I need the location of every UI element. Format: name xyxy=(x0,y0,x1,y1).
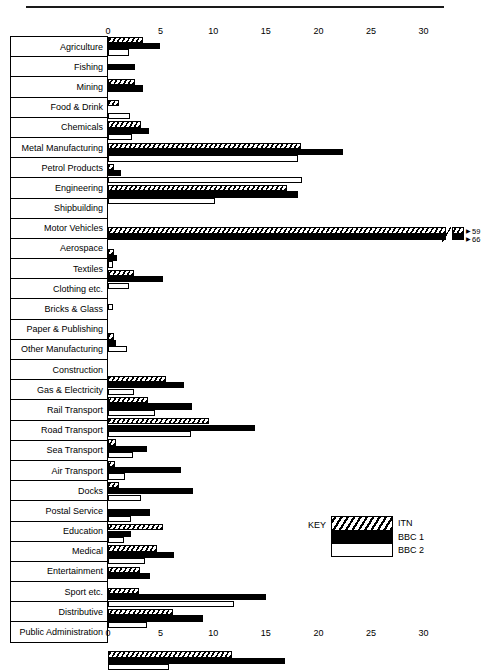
bar-engineering-bbc2 xyxy=(108,198,215,204)
bar-mining-bbc1 xyxy=(108,85,143,91)
bar-air-transport-itn xyxy=(108,482,119,488)
category-label-column: AgricultureFishingMiningFood & DrinkChem… xyxy=(10,36,108,643)
bar-group-medical xyxy=(108,566,480,587)
bar-textiles-bbc1 xyxy=(108,276,163,282)
legend-swatch-itn: ITN xyxy=(332,517,392,530)
bar-postal-service-itn xyxy=(108,524,163,530)
category-label-docks: Docks xyxy=(10,480,108,501)
bar-group-gas-electricity xyxy=(108,396,480,417)
bar-motor-vehicles-itn-outlier-stub xyxy=(452,227,464,233)
legend-swatch-bbc-2: BBC 2 xyxy=(332,543,392,556)
bar-group-paper-publishing xyxy=(108,333,480,354)
category-label-education: Education xyxy=(10,521,108,542)
bar-group-air-transport xyxy=(108,481,480,502)
x-axis-bottom-tick-30: 30 xyxy=(419,626,429,640)
bar-group-aerospace xyxy=(108,248,480,269)
bar-air-transport-bbc1 xyxy=(108,488,193,494)
category-label-textiles: Textiles xyxy=(10,258,108,279)
bar-paper-publishing-bbc2 xyxy=(108,346,127,352)
bar-group-docks xyxy=(108,502,480,523)
category-label-sea-transport: Sea Transport xyxy=(10,440,108,461)
legend-label-bbc-2: BBC 2 xyxy=(398,545,424,556)
bar-aerospace-bbc2 xyxy=(108,261,113,267)
bar-education-itn xyxy=(108,545,157,551)
category-label-aerospace: Aerospace xyxy=(10,238,108,259)
plot-area: 5966 xyxy=(108,36,480,608)
bar-entertainment-bbc1 xyxy=(108,594,266,600)
category-label-postal-service: Postal Service xyxy=(10,500,108,521)
bar-group-shipbuilding xyxy=(108,206,480,227)
bar-food-drink-bbc2 xyxy=(108,113,130,119)
bar-metal-manufacturing-itn xyxy=(108,143,301,149)
bar-clothing-etc-bbc2 xyxy=(108,304,113,310)
bar-agriculture-bbc1 xyxy=(108,43,160,49)
bar-sport-etc-itn xyxy=(108,609,173,615)
bar-textiles-bbc2 xyxy=(108,283,129,289)
bar-construction-itn xyxy=(108,376,166,382)
bar-road-transport-bbc1 xyxy=(108,446,147,452)
bar-sea-transport-bbc2 xyxy=(108,473,125,479)
bar-medical-itn xyxy=(108,567,140,573)
category-label-other-manufacturing: Other Manufacturing xyxy=(10,339,108,360)
bar-engineering-bbc1 xyxy=(108,191,298,197)
bar-rail-transport-bbc2 xyxy=(108,431,191,437)
bar-group-bricks-glass xyxy=(108,312,480,333)
bar-postal-service-bbc1 xyxy=(108,531,131,537)
bar-group-food-drink xyxy=(108,100,480,121)
bar-group-rail-transport xyxy=(108,418,480,439)
bar-group-entertainment xyxy=(108,587,480,608)
category-label-agriculture: Agriculture xyxy=(10,36,108,57)
category-label-clothing-etc: Clothing etc. xyxy=(10,278,108,299)
bar-food-drink-itn xyxy=(108,100,119,106)
bar-group-agriculture xyxy=(108,36,480,57)
bar-construction-bbc1 xyxy=(108,382,184,388)
category-label-road-transport: Road Transport xyxy=(10,420,108,441)
bar-group-engineering xyxy=(108,184,480,205)
category-label-chemicals: Chemicals xyxy=(10,117,108,138)
x-axis-bottom-tick-15: 15 xyxy=(261,626,271,640)
bar-group-chemicals xyxy=(108,121,480,142)
bar-rail-transport-bbc1 xyxy=(108,425,255,431)
bar-education-bbc2 xyxy=(108,558,145,564)
legend-swatch-bbc-1: BBC 1 xyxy=(332,530,392,543)
category-label-petrol-products: Petrol Products xyxy=(10,157,108,178)
axis-break-mark xyxy=(442,227,451,242)
category-label-engineering: Engineering xyxy=(10,177,108,198)
legend: KEY ITNBBC 1BBC 2 xyxy=(308,516,393,557)
bar-road-transport-itn xyxy=(108,439,116,445)
category-label-fishing: Fishing xyxy=(10,56,108,77)
x-axis-bottom-tick-0: 0 xyxy=(105,626,110,640)
bar-group-fishing xyxy=(108,57,480,78)
bar-fishing-bbc1 xyxy=(108,64,135,70)
bar-group-textiles xyxy=(108,269,480,290)
bar-group-education xyxy=(108,545,480,566)
outlier-value-66: 66 xyxy=(466,235,480,244)
category-label-mining: Mining xyxy=(10,76,108,97)
bar-chemicals-bbc2 xyxy=(108,134,132,140)
bar-sport-etc-bbc1 xyxy=(108,615,203,621)
bar-agriculture-bbc2 xyxy=(108,49,129,55)
category-label-motor-vehicles: Motor Vehicles xyxy=(10,218,108,239)
category-label-distributive: Distributive xyxy=(10,601,108,622)
legend-label-itn: ITN xyxy=(398,518,413,529)
bar-medical-bbc1 xyxy=(108,573,150,579)
bar-public-administration-bbc2 xyxy=(108,664,169,670)
bar-public-administration-itn xyxy=(108,651,232,657)
bar-group-other-manufacturing xyxy=(108,354,480,375)
bar-chemicals-bbc1 xyxy=(108,128,149,134)
legend-label-bbc-1: BBC 1 xyxy=(398,532,424,543)
bar-agriculture-itn xyxy=(108,37,143,43)
category-label-sport-etc: Sport etc. xyxy=(10,581,108,602)
bar-petrol-products-bbc2 xyxy=(108,177,302,183)
bar-group-petrol-products xyxy=(108,163,480,184)
category-label-air-transport: Air Transport xyxy=(10,460,108,481)
bar-group-postal-service xyxy=(108,524,480,545)
x-axis-bottom-tick-25: 25 xyxy=(366,626,376,640)
bar-motor-vehicles-bbc1-outlier-stub xyxy=(452,234,464,240)
bar-construction-bbc2 xyxy=(108,389,134,395)
bar-paper-publishing-bbc1 xyxy=(108,340,116,346)
bar-engineering-itn xyxy=(108,185,287,191)
x-axis-bottom-tick-20: 20 xyxy=(313,626,323,640)
x-axis-bottom-tick-5: 5 xyxy=(158,626,163,640)
